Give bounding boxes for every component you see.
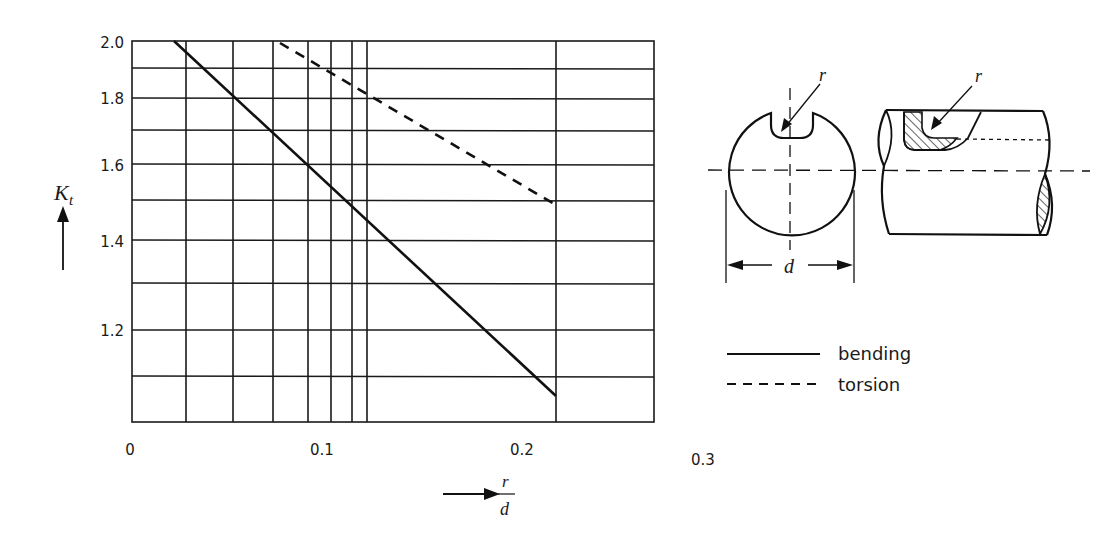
y-label-main: K <box>53 180 70 205</box>
torsion-line <box>280 43 556 205</box>
x-tick: 0.1 <box>310 441 334 459</box>
legend-torsion-label: torsion <box>838 374 900 395</box>
legend-bending-label: bending <box>838 343 911 364</box>
stress-concentration-chart: 2.0 1.8 1.6 1.4 1.2 0 0.1 0.2 0.3 K t r … <box>0 0 1107 539</box>
x-axis-ticks: 0 0.1 0.2 0.3 <box>125 441 715 469</box>
x-tick: 0 <box>125 441 135 459</box>
cross-section-r-label: r <box>819 65 827 85</box>
x-tick: 0.2 <box>510 441 534 459</box>
shaft-radius-leader <box>937 86 972 124</box>
x-axis-arrowhead-icon <box>484 488 500 500</box>
keyway-hatch <box>904 112 957 150</box>
y-tick: 1.8 <box>100 90 124 108</box>
x-tick: 0.3 <box>691 451 715 469</box>
x-label-denominator: d <box>500 499 510 519</box>
y-tick: 1.6 <box>100 157 124 175</box>
plot-grid <box>132 41 654 422</box>
legend: bending torsion <box>727 343 911 395</box>
diameter-d-label: d <box>784 255 795 277</box>
y-axis-label: K t <box>53 180 74 270</box>
y-tick: 1.4 <box>100 233 124 251</box>
dim-arrow-right-icon <box>837 260 853 270</box>
shaft-radius-arrowhead-icon <box>931 116 942 130</box>
dim-arrow-left-icon <box>727 260 743 270</box>
y-tick: 2.0 <box>100 34 124 52</box>
horizontal-centerline <box>708 170 1090 171</box>
radius-leader <box>786 84 820 126</box>
notched-circle-outline <box>729 113 855 235</box>
cross-section-diagram <box>708 84 1090 283</box>
y-axis-ticks: 2.0 1.8 1.6 1.4 1.2 <box>100 34 124 340</box>
y-label-sub: t <box>69 192 74 208</box>
shaft-right-section-hatch <box>1037 174 1050 234</box>
x-axis-label: r d <box>443 472 515 519</box>
shaft-side-view <box>878 86 1052 235</box>
y-axis-arrowhead-icon <box>57 206 69 222</box>
shaft-left-end <box>878 110 889 234</box>
keyway-depth-line <box>957 139 1050 140</box>
shaft-r-label: r <box>975 66 983 86</box>
y-tick: 1.2 <box>100 322 124 340</box>
shaft-bottom-edge <box>889 234 1047 235</box>
x-label-numerator: r <box>502 472 509 491</box>
shaft-top-edge <box>886 110 1043 111</box>
